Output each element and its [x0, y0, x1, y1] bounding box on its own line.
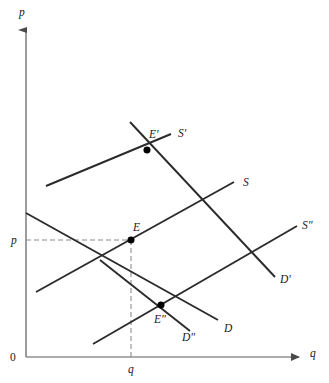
label-point-E-prime: E' [148, 128, 159, 140]
guide-lines-group [26, 240, 131, 357]
label-supply-S: S [243, 176, 249, 188]
origin-label: 0 [10, 351, 16, 363]
label-point-E-double-prime: E" [153, 313, 166, 325]
label-supply-S-double-prime: S" [302, 219, 313, 231]
point-labels-group: E E' E" [132, 128, 166, 325]
label-demand-D: D [223, 322, 233, 334]
supply-curve-S [36, 182, 234, 292]
supply-curve-S-prime [46, 134, 171, 186]
label-demand-D-prime: D' [279, 273, 291, 285]
equilibrium-point-E-prime [144, 147, 151, 154]
demand-curve-D [26, 213, 218, 320]
economics-plot-canvas: S S' S" D D' D" E E' E" p q 0 p q [0, 0, 329, 383]
demand-curve-D-prime [130, 122, 275, 277]
x-axis-tick-label-q: q [128, 363, 134, 376]
label-point-E: E [132, 221, 140, 233]
supply-demand-figure: S S' S" D D' D" E E' E" p q 0 p q [0, 0, 329, 383]
y-axis-label: p [18, 6, 25, 19]
equilibrium-point-E-double-prime [158, 302, 165, 309]
equilibrium-point-E [128, 237, 135, 244]
label-supply-S-prime: S' [178, 127, 187, 139]
y-axis-tick-label-p: p [10, 234, 17, 247]
label-demand-D-double-prime: D" [181, 331, 195, 343]
x-axis-label: q [310, 347, 316, 360]
curves-group [26, 122, 297, 344]
curve-labels-group: S S' S" D D' D" [178, 127, 313, 343]
